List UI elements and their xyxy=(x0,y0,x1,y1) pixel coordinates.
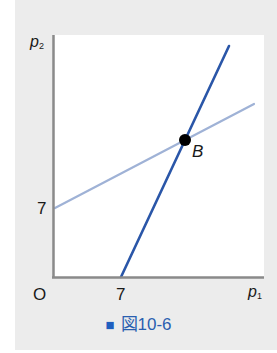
x-axis-var: p xyxy=(248,283,257,300)
caption-text: 図10-6 xyxy=(121,315,172,334)
y-axis-var: p xyxy=(30,33,39,50)
point-b-marker xyxy=(179,134,191,146)
y-axis-label: p2 xyxy=(30,34,44,50)
x-axis-label: p1 xyxy=(248,284,262,300)
y-axis-sub: 2 xyxy=(39,41,44,51)
y-tick-7: 7 xyxy=(37,200,46,217)
point-b-label: B xyxy=(192,143,203,160)
x-tick-7: 7 xyxy=(116,286,125,303)
x-axis-sub: 1 xyxy=(257,291,262,301)
steep-line xyxy=(121,46,229,277)
gentle-line xyxy=(55,104,254,208)
figure-caption: ■図10-6 xyxy=(0,316,277,333)
caption-square-icon: ■ xyxy=(105,316,114,333)
origin-label: O xyxy=(33,286,46,303)
